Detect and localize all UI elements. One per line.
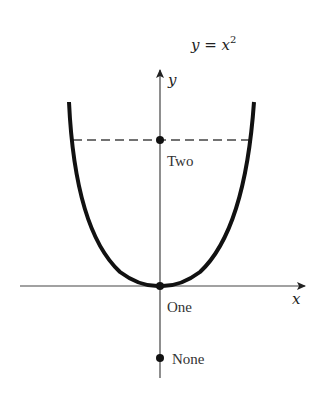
equation-title: y = x2 [190,34,236,54]
point-one [156,282,164,290]
parabola-diagram: Two One None x y y = x2 [0,0,320,394]
y-axis-label: y [167,71,177,89]
parabola-curve [69,102,254,286]
label-none: None [172,351,205,367]
point-two [156,136,164,144]
x-axis-label: x [292,290,301,308]
label-one: One [167,299,192,315]
point-none [156,354,164,362]
label-two: Two [167,153,193,169]
